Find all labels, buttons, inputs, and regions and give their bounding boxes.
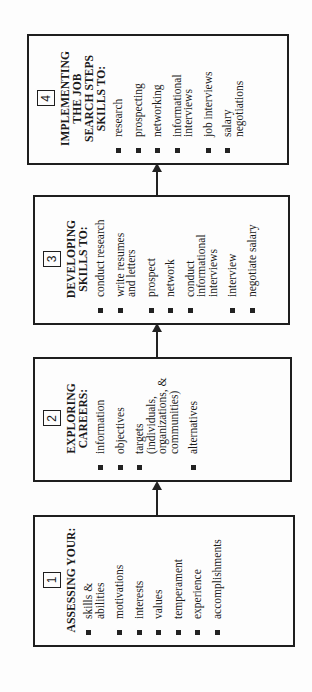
- list-item: interview: [227, 205, 239, 313]
- arrow-step3-to-step4: [156, 165, 158, 195]
- bullet-icon: [116, 148, 121, 153]
- list-item: objectives: [115, 367, 127, 470]
- flow-diagram: 1 ASSESSING YOUR: skills & abilities mot…: [0, 0, 312, 692]
- bullet-icon: [156, 630, 161, 635]
- bullet-icon: [118, 465, 123, 470]
- bullet-icon: [98, 308, 103, 313]
- bullet-icon: [250, 308, 255, 313]
- bullet-icon: [206, 148, 211, 153]
- list-item: information: [95, 367, 107, 470]
- list-item: experience: [192, 525, 204, 635]
- step-4-title: IMPLEMENTING THE JOB SEARCH STEPS SKILLS…: [59, 44, 107, 153]
- step-1-title: ASSESSING YOUR:: [65, 525, 77, 635]
- list-item: negotiate salary: [247, 205, 259, 313]
- bullet-icon: [188, 308, 193, 313]
- list-item: alternatives: [188, 367, 200, 470]
- bullet-icon: [86, 630, 91, 635]
- list-item: write resumes and letters: [115, 205, 138, 313]
- step-1-list: skills & abilities motivations interests…: [83, 525, 223, 635]
- list-item: salary negotiations: [222, 44, 245, 153]
- bullet-icon: [155, 148, 160, 153]
- bullet-icon: [230, 308, 235, 313]
- arrowhead-icon: [152, 481, 162, 490]
- bullet-icon: [195, 630, 200, 635]
- step-3-number: 3: [43, 251, 61, 267]
- list-item: prospecting: [133, 44, 145, 153]
- list-item: research: [113, 44, 125, 153]
- list-item: job interviews: [203, 44, 215, 153]
- bullet-icon: [215, 630, 220, 635]
- step-2-box: 2 EXPLORING CAREERS: information objecti…: [33, 357, 292, 482]
- list-item: informational interviews: [172, 44, 195, 153]
- step-3-title: DEVELOPING SKILLS TO:: [65, 205, 89, 313]
- bullet-icon: [136, 148, 141, 153]
- list-item: accomplishments: [212, 525, 224, 635]
- list-item: conduct research: [95, 205, 107, 313]
- bullet-icon: [137, 630, 142, 635]
- bullet-icon: [168, 308, 173, 313]
- step-2-title: EXPLORING CAREERS:: [65, 367, 89, 470]
- bullet-icon: [149, 308, 154, 313]
- step-4-list: research prospecting networking informat…: [113, 44, 245, 153]
- list-item: values: [153, 525, 165, 635]
- bullet-icon: [191, 465, 196, 470]
- bullet-icon: [98, 465, 103, 470]
- bullet-icon: [118, 308, 123, 313]
- step-1-number: 1: [43, 572, 61, 588]
- list-item: prospect: [146, 205, 158, 313]
- step-2-number: 2: [43, 411, 61, 427]
- bullet-icon: [175, 148, 180, 153]
- step-4-box: 4 IMPLEMENTING THE JOB SEARCH STEPS SKIL…: [27, 34, 289, 165]
- bullet-icon: [176, 630, 181, 635]
- list-item: temperament: [173, 525, 185, 635]
- bullet-icon: [117, 630, 122, 635]
- step-3-list: conduct research write resumes and lette…: [95, 205, 258, 313]
- list-item: conduct informational interviews: [185, 205, 220, 313]
- arrow-step2-to-step3: [156, 325, 158, 357]
- step-1-box: 1 ASSESSING YOUR: skills & abilities mot…: [33, 515, 295, 647]
- step-4-number: 4: [37, 91, 55, 107]
- list-item: interests: [134, 525, 146, 635]
- arrow-step1-to-step2: [156, 483, 158, 515]
- list-item: skills & abilities: [83, 525, 106, 635]
- list-item: networking: [152, 44, 164, 153]
- list-item: motivations: [114, 525, 126, 635]
- list-item: targets (individuals, organizations, & c…: [134, 367, 180, 470]
- step-2-list: information objectives targets (individu…: [95, 367, 200, 470]
- bullet-icon: [225, 148, 230, 153]
- bullet-icon: [137, 465, 142, 470]
- step-3-box: 3 DEVELOPING SKILLS TO: conduct research…: [33, 195, 290, 325]
- list-item: network: [165, 205, 177, 313]
